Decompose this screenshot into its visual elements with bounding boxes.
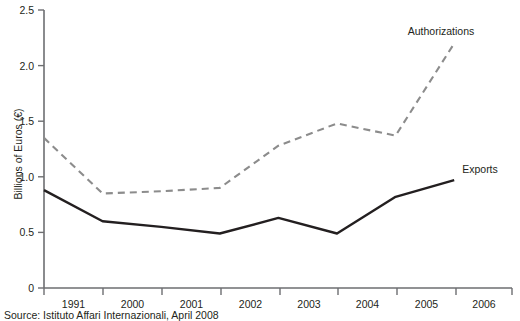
y-tick-label: 2.5 <box>0 4 34 16</box>
y-tick-label: 1.5 <box>0 115 34 127</box>
y-tick-label: 0 <box>0 282 34 294</box>
x-tick-label: 2003 <box>297 298 320 310</box>
y-tick-label: 1.0 <box>0 171 34 183</box>
chart-axes <box>44 10 512 288</box>
y-axis-ticks <box>38 10 44 288</box>
chart-figure: Billions of Euros (€) 0 0.5 1.0 1.5 2.0 … <box>0 0 520 321</box>
y-tick-label: 2.0 <box>0 60 34 72</box>
chart-plot-area <box>0 0 520 321</box>
x-tick-label: 2002 <box>239 298 262 310</box>
series-label-authorizations: Authorizations <box>408 25 475 37</box>
source-note: Source: Istituto Affari Internazionali, … <box>4 309 219 321</box>
y-tick-label: 0.5 <box>0 226 34 238</box>
y-axis-title: Billions of Euros (€) <box>12 74 24 234</box>
series-line-authorizations <box>44 43 454 193</box>
x-axis-ticks <box>44 288 512 295</box>
series-line-exports <box>44 180 454 233</box>
x-tick-label: 2004 <box>356 298 379 310</box>
series-label-exports: Exports <box>462 163 498 175</box>
x-tick-label: 2006 <box>472 298 495 310</box>
x-tick-label: 2005 <box>415 298 438 310</box>
